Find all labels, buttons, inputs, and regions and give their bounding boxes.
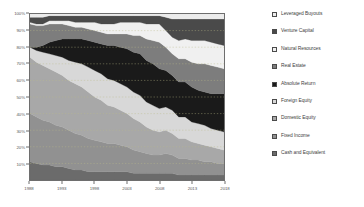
legend-label: Absolute Return (281, 82, 315, 87)
legend-label: Fixed Income (281, 134, 310, 139)
legend-swatch-icon (272, 116, 277, 121)
legend-item-leveraged-buyouts[interactable]: Leveraged Buyouts (272, 10, 322, 19)
legend-item-absolute-return[interactable]: Absolute Return (272, 80, 315, 89)
legend-swatch-icon (272, 82, 277, 87)
legend-swatch-icon (272, 47, 277, 52)
x-tick-label: 1988 (24, 186, 33, 191)
x-tick-label: 2018 (220, 186, 229, 191)
legend-item-venture-capital[interactable]: Venture Capital (272, 27, 314, 36)
x-tick-mark (61, 181, 62, 184)
y-tick-label: 60% (17, 78, 26, 83)
y-tick-label: 30% (17, 128, 26, 133)
y-tick-label: 90% (17, 27, 26, 32)
x-tick-label: 1998 (90, 186, 99, 191)
y-tick-label: 50% (17, 95, 26, 100)
chart-legend: Leveraged BuyoutsVenture CapitalNatural … (272, 10, 364, 168)
legend-swatch-icon (272, 64, 277, 69)
legend-swatch-icon (272, 99, 277, 104)
y-axis: 10%20%30%40%50%60%70%80%90%100% (0, 13, 27, 181)
x-tick-label: 2003 (122, 186, 131, 191)
y-tick-label: 80% (17, 44, 26, 49)
legend-label: Natural Resources (281, 47, 321, 52)
x-tick-mark (192, 181, 193, 184)
legend-swatch-icon (272, 12, 277, 17)
legend-item-natural-resources[interactable]: Natural Resources (272, 45, 321, 54)
y-tick-label: 70% (17, 61, 26, 66)
x-tick-mark (159, 181, 160, 184)
chart-container: 10%20%30%40%50%60%70%80%90%100% 19881993… (0, 0, 364, 207)
x-tick-label: 2013 (188, 186, 197, 191)
stacked-area-chart (30, 14, 224, 180)
x-tick-label: 2008 (155, 186, 164, 191)
x-tick-mark (127, 181, 128, 184)
legend-swatch-icon (272, 29, 277, 34)
legend-label: Cash and Equivalent (281, 151, 325, 156)
legend-item-cash-and-equivalent[interactable]: Cash and Equivalent (272, 149, 325, 158)
x-tick-label: 1993 (57, 186, 66, 191)
legend-label: Leveraged Buyouts (281, 12, 322, 17)
legend-item-fixed-income[interactable]: Fixed Income (272, 132, 310, 141)
legend-item-real-estate[interactable]: Real Estate (272, 62, 306, 71)
y-tick-label: 20% (17, 145, 26, 150)
x-tick-mark (29, 181, 30, 184)
y-tick-label: 40% (17, 111, 26, 116)
legend-label: Venture Capital (281, 29, 314, 34)
legend-item-foreign-equity[interactable]: Foreign Equity (272, 97, 312, 106)
plot-area (29, 13, 225, 181)
x-tick-mark (94, 181, 95, 184)
legend-item-domestic-equity[interactable]: Domestic Equity (272, 114, 316, 123)
legend-label: Domestic Equity (281, 116, 316, 121)
legend-label: Foreign Equity (281, 99, 312, 104)
legend-label: Real Estate (281, 64, 306, 69)
y-tick-label: 10% (17, 162, 26, 167)
x-tick-mark (225, 181, 226, 184)
legend-swatch-icon (272, 134, 277, 139)
x-axis: 1988199319982003200820132018 (29, 181, 225, 197)
y-tick-label: 100% (14, 11, 25, 16)
legend-swatch-icon (272, 151, 277, 156)
